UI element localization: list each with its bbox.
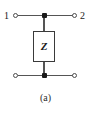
junction-node-bottom-icon	[42, 73, 47, 78]
figure-caption: (a)	[0, 92, 91, 103]
junction-node-top-icon	[42, 13, 47, 18]
wire-top-right	[44, 15, 73, 16]
port-2-label: 2	[80, 11, 85, 21]
wire-top-left	[18, 15, 44, 16]
port-1-label: 1	[4, 11, 9, 21]
terminal-bottom-left-icon	[13, 73, 18, 78]
wire-bottom-right	[44, 75, 73, 76]
wire-bottom-left	[18, 75, 44, 76]
circuit-figure: 1 2 Z (a)	[0, 0, 91, 114]
wire-vertical-top	[43, 15, 45, 32]
impedance-box: Z	[33, 31, 55, 62]
terminal-top-right-icon	[72, 13, 77, 18]
terminal-top-left-icon	[13, 13, 18, 18]
terminal-bottom-right-icon	[72, 73, 77, 78]
impedance-symbol-label: Z	[41, 41, 48, 52]
